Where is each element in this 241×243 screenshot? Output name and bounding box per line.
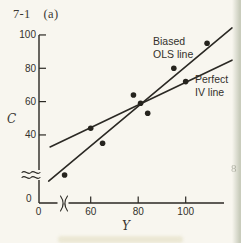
data-point	[62, 172, 68, 178]
x-axis-title: Y	[122, 219, 130, 233]
y-axis-title: C	[7, 112, 16, 126]
perfect-iv-line-label: Perfect IV line	[195, 73, 228, 98]
y-tick-label: 40	[25, 129, 37, 140]
scatter-chart: 608010040608010000	[0, 0, 241, 243]
x-tick-label: 60	[85, 206, 97, 217]
data-point	[183, 79, 189, 85]
y-tick-label: 100	[19, 29, 36, 40]
data-point	[171, 65, 177, 71]
y-origin-label: 0	[26, 193, 32, 204]
data-point	[131, 92, 137, 98]
perfect-iv-line-label-row1: Perfect	[195, 73, 228, 86]
x-tick-label: 80	[133, 206, 145, 217]
biased-ols-line-label-row2: OLS line	[153, 48, 193, 61]
data-point	[88, 125, 94, 131]
cropped-edge-glyph: 8	[231, 162, 237, 174]
x-axis-break-mark	[61, 196, 68, 211]
data-point	[145, 110, 151, 116]
perfect-iv-line-label-row2: IV line	[195, 86, 228, 99]
y-tick-label: 60	[25, 96, 37, 107]
x-origin-label: 0	[36, 206, 42, 217]
textbook-figure-page: 7-1(a) 608010040608010000 C Y Biased OLS…	[0, 0, 241, 243]
data-point	[204, 40, 210, 46]
data-point	[100, 140, 106, 146]
biased-ols-line-label: Biased OLS line	[153, 35, 193, 60]
x-tick-label: 100	[177, 206, 194, 217]
y-axis-break-mark	[22, 171, 40, 178]
y-tick-label: 80	[25, 63, 37, 74]
biased-ols-line-label-row1: Biased	[153, 35, 193, 48]
data-point	[138, 100, 144, 106]
